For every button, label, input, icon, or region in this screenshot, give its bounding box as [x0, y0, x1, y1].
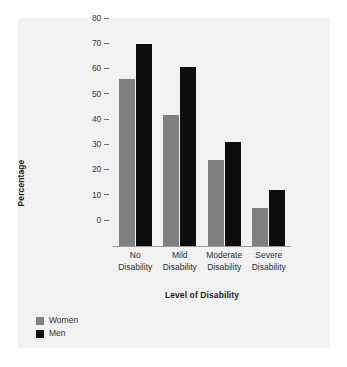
y-axis-tick-mark	[104, 144, 109, 145]
bar-men-mild-disability[interactable]	[180, 67, 196, 246]
y-axis-tick-label: 60	[92, 64, 101, 73]
y-axis-tick-mark	[104, 194, 109, 195]
legend-item-men[interactable]: Men	[36, 327, 78, 340]
x-axis-title: Level of Disability	[113, 290, 291, 300]
bar-women-moderate-disability[interactable]	[208, 160, 224, 246]
bar-group	[252, 44, 285, 246]
x-axis-label-line: Mild	[172, 250, 188, 260]
bar-group	[119, 44, 152, 246]
bar-group	[163, 44, 196, 246]
y-axis-tick-label: 50	[92, 90, 101, 99]
x-axis-label-line: No	[130, 250, 141, 260]
y-axis-tick-mark	[104, 18, 109, 19]
legend-swatch-men	[36, 330, 44, 338]
legend-label: Men	[49, 329, 66, 338]
chart-legend: WomenMen	[36, 314, 78, 340]
y-axis-tick-mark	[104, 119, 109, 120]
y-axis-tick-mark	[104, 68, 109, 69]
bar-men-severe-disability[interactable]	[269, 190, 285, 246]
plot-area	[113, 44, 291, 246]
y-axis-title: Percentage	[16, 118, 26, 248]
y-axis-tick-label: 80	[92, 14, 101, 23]
bar-men-moderate-disability[interactable]	[225, 142, 241, 246]
y-axis-tick-mark	[104, 169, 109, 170]
y-axis-tick-mark	[104, 220, 109, 221]
x-axis-labels: NoDisabilityMildDisabilityModerateDisabi…	[113, 250, 291, 284]
chart-figure: 80706050403020100 Percentage NoDisabilit…	[18, 18, 330, 348]
bar-women-severe-disability[interactable]	[252, 208, 268, 246]
legend-item-women[interactable]: Women	[36, 314, 78, 327]
y-axis: 80706050403020100	[18, 18, 113, 220]
y-axis-tick-label: 70	[92, 39, 101, 48]
legend-label: Women	[49, 316, 78, 325]
bar-women-mild-disability[interactable]	[163, 115, 179, 246]
x-axis-label: SevereDisability	[236, 250, 302, 273]
y-axis-tick-label: 0	[96, 216, 101, 225]
legend-swatch-women	[36, 317, 44, 325]
bar-group	[208, 44, 241, 246]
y-axis-tick-mark	[104, 43, 109, 44]
x-axis-label-line: Disability	[236, 262, 302, 274]
bar-series-container	[113, 44, 291, 246]
x-axis-label-line: Severe	[255, 250, 282, 260]
y-axis-tick-label: 20	[92, 165, 101, 174]
y-axis-tick-mark	[104, 93, 109, 94]
x-axis-baseline	[113, 246, 291, 247]
bar-women-no-disability[interactable]	[119, 79, 135, 246]
bar-men-no-disability[interactable]	[136, 44, 152, 246]
y-axis-tick-label: 40	[92, 115, 101, 124]
y-axis-tick-label: 10	[92, 191, 101, 200]
y-axis-tick-label: 30	[92, 140, 101, 149]
